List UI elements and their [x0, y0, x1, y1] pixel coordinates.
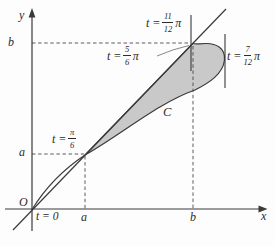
- figure-parametric-curve: y x O b a a b C t = 0 t = π 6 t = 5 6 π …: [0, 0, 275, 246]
- fraction-denominator: 12: [243, 56, 252, 66]
- fraction-numerator: 5: [123, 45, 130, 56]
- param-prefix: t =: [227, 50, 241, 62]
- x-tick-a: a: [81, 211, 87, 223]
- param-prefix: t =: [52, 133, 66, 145]
- fraction-denominator: 6: [70, 139, 74, 149]
- param-label-t0: t = 0: [36, 211, 58, 223]
- fraction-numerator: 7: [244, 45, 251, 56]
- fraction: 5 6: [123, 45, 130, 66]
- fraction-numerator: 11: [162, 12, 173, 23]
- x-tick-b: b: [190, 211, 196, 223]
- param-prefix: t =: [107, 50, 121, 62]
- param-suffix: π: [133, 50, 139, 62]
- curve-label: C: [163, 106, 171, 119]
- y-axis-label: y: [19, 9, 24, 21]
- y-tick-a: a: [19, 146, 25, 158]
- fraction-denominator: 12: [164, 23, 173, 33]
- fraction: 7 12: [243, 45, 252, 66]
- shaded-region: [85, 43, 225, 155]
- param-suffix: π: [175, 17, 181, 29]
- x-axis-label: x: [261, 210, 266, 222]
- param-label-t-pi-6: t = π 6: [52, 128, 78, 149]
- y-axis-arrow: [29, 8, 36, 18]
- fraction-denominator: 6: [125, 56, 129, 66]
- param-label-t-5pi-6: t = 5 6 π: [107, 45, 139, 66]
- param-label-t-7pi-12: t = 7 12 π: [227, 45, 260, 66]
- y-tick-b: b: [8, 36, 14, 48]
- fraction: 11 12: [162, 12, 173, 33]
- param-label-t-11pi-12: t = 11 12 π: [146, 12, 181, 33]
- fraction: π 6: [68, 128, 75, 149]
- param-prefix: t =: [146, 17, 160, 29]
- fraction-numerator: π: [68, 128, 75, 139]
- param-suffix: π: [254, 50, 260, 62]
- identity-line: [13, 9, 226, 230]
- origin-label: O: [19, 196, 28, 208]
